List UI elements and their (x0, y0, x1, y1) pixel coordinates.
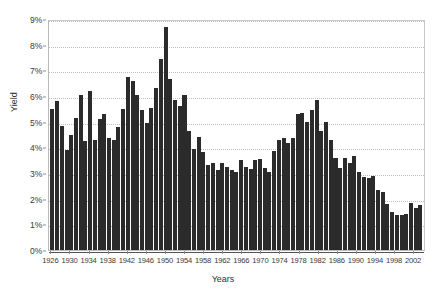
bar (239, 160, 243, 250)
y-tick-mark-5% (43, 122, 46, 123)
bar (409, 203, 413, 250)
bar (277, 140, 281, 250)
x-tick-label-1954: 1954 (176, 256, 192, 265)
bar (178, 106, 182, 250)
bar (50, 109, 54, 250)
bar (376, 190, 380, 250)
x-tick-mark-1950 (165, 251, 166, 254)
x-tick-mark-1974 (279, 251, 280, 254)
x-tick-label-1946: 1946 (138, 256, 154, 265)
x-tick-mark-1958 (203, 251, 204, 254)
bar (348, 163, 352, 250)
bar (121, 109, 125, 250)
x-tick-label-1938: 1938 (100, 256, 116, 265)
x-tick-label-1998: 1998 (386, 256, 402, 265)
bar (220, 163, 224, 250)
x-tick-mark-1982 (318, 251, 319, 254)
x-tick-mark-1962 (222, 251, 223, 254)
x-tick-mark-1938 (108, 251, 109, 254)
bar (381, 192, 385, 250)
y-tick-mark-9% (43, 20, 46, 21)
x-tick-mark-1926 (50, 251, 51, 254)
y-tick-label-1%: 1% (30, 220, 42, 230)
x-tick-mark-1942 (127, 251, 128, 254)
x-tick-mark-1990 (356, 251, 357, 254)
bar (324, 122, 328, 250)
bar (234, 172, 238, 250)
bar (282, 138, 286, 250)
x-tick-label-1942: 1942 (119, 256, 135, 265)
bar (300, 113, 304, 250)
x-axis: 1926193019341938194219461950195419581962… (48, 251, 425, 269)
bar (154, 88, 158, 250)
bar (168, 79, 172, 250)
bar (395, 215, 399, 250)
x-axis-title: Years (0, 274, 446, 284)
y-tick-mark-0% (43, 251, 46, 252)
x-tick-label-1926: 1926 (42, 256, 58, 265)
bar (173, 100, 177, 250)
x-tick-mark-1978 (299, 251, 300, 254)
bar (404, 214, 408, 250)
bar (367, 178, 371, 250)
bar (197, 137, 201, 250)
bar (74, 118, 78, 250)
bar (69, 135, 73, 251)
bar (98, 119, 102, 250)
y-tick-mark-3% (43, 174, 46, 175)
bar (112, 140, 116, 250)
bar (291, 138, 295, 250)
x-tick-mark-1998 (394, 251, 395, 254)
bar (267, 172, 271, 250)
bar (201, 152, 205, 250)
bar (400, 215, 404, 250)
bar (319, 131, 323, 250)
x-tick-mark-1946 (146, 251, 147, 254)
bar (211, 163, 215, 250)
x-tick-label-1974: 1974 (271, 256, 287, 265)
bar (343, 158, 347, 250)
y-tick-mark-8% (43, 45, 46, 46)
bar (79, 95, 83, 250)
x-tick-label-1930: 1930 (61, 256, 77, 265)
x-tick-mark-1930 (69, 251, 70, 254)
y-tick-label-5%: 5% (30, 118, 42, 128)
bar (116, 127, 120, 250)
bar (333, 158, 337, 250)
y-tick-label-7%: 7% (30, 66, 42, 76)
bar (225, 167, 229, 250)
x-tick-label-1986: 1986 (329, 256, 345, 265)
bar (371, 176, 375, 250)
bar (249, 169, 253, 250)
bar (140, 110, 144, 250)
y-tick-mark-4% (43, 148, 46, 149)
bar (216, 170, 220, 250)
bar (60, 126, 64, 250)
bar (310, 110, 314, 250)
x-tick-label-2002: 2002 (405, 256, 421, 265)
x-tick-label-1978: 1978 (290, 256, 306, 265)
y-tick-label-0%: 0% (30, 246, 42, 256)
bar (385, 204, 389, 250)
bar (83, 141, 87, 250)
bar (357, 172, 361, 250)
x-tick-label-1950: 1950 (157, 256, 173, 265)
bar (390, 212, 394, 251)
bar (145, 123, 149, 250)
y-tick-label-9%: 9% (30, 15, 42, 25)
bar (107, 138, 111, 250)
bar (182, 95, 186, 250)
bar (192, 149, 196, 250)
x-tick-mark-1954 (184, 251, 185, 254)
bar (263, 168, 267, 250)
y-tick-mark-2% (43, 199, 46, 200)
bar (253, 160, 257, 250)
bar (230, 170, 234, 250)
plot-area (48, 20, 425, 251)
bar (135, 95, 139, 250)
y-tick-label-2%: 2% (30, 195, 42, 205)
x-tick-mark-2002 (413, 251, 414, 254)
y-tick-label-8%: 8% (30, 41, 42, 51)
bar (102, 114, 106, 250)
x-tick-mark-1934 (89, 251, 90, 254)
